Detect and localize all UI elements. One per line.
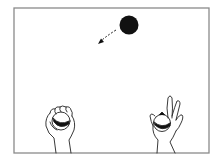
juggling-illustration [0,0,221,161]
frame-border [14,8,209,153]
airborne-ball-icon [120,16,139,35]
illustration-canvas [0,0,221,161]
left-hand-icon [46,106,75,153]
right-hand-icon [150,96,183,153]
motion-arrow-icon [98,30,116,44]
